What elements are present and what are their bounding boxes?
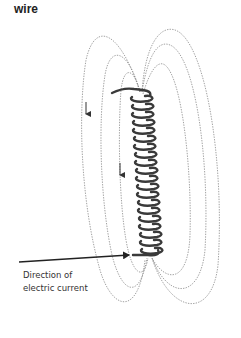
current-direction-label: Direction of electric current (23, 269, 88, 295)
caption-line-2: electric current (23, 282, 88, 295)
current-direction-arrow (19, 255, 129, 262)
caption-line-1: Direction of (23, 269, 88, 282)
field-direction-arrows (86, 102, 120, 175)
field-lines-right (142, 29, 219, 303)
